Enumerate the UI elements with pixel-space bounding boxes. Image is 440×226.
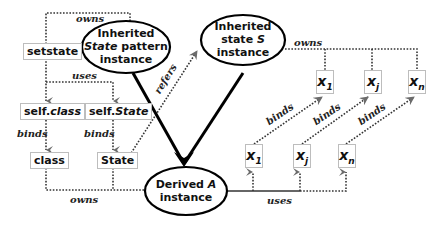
node-label: state S xyxy=(202,33,284,46)
var-sub: 1 xyxy=(326,82,332,92)
var-base: x xyxy=(409,73,418,89)
var-base: x xyxy=(367,73,376,89)
edge-label-binds-state: binds xyxy=(84,128,115,139)
s-var-xn: xn xyxy=(408,70,426,94)
edge-label-owns-right: owns xyxy=(294,37,322,48)
node-label-prefix: self. xyxy=(24,105,50,118)
var-sub: n xyxy=(418,82,424,92)
node-label: instance xyxy=(84,53,168,66)
node-label-italic: State xyxy=(115,105,148,118)
node-label: Inherited xyxy=(84,27,168,40)
node-label-italic: S xyxy=(257,33,265,46)
a-var-xn: xn xyxy=(338,144,356,168)
a-var-x1: x1 xyxy=(245,144,263,168)
node-state: State xyxy=(97,152,138,169)
var-base: x xyxy=(296,147,305,163)
edge-label-owns-top: owns xyxy=(76,13,104,24)
node-label: instance xyxy=(146,191,226,204)
node-label-rest: Derived xyxy=(156,178,208,191)
node-label: Derived A xyxy=(146,178,226,191)
node-label-rest: state xyxy=(221,33,257,46)
var-sub: j xyxy=(376,82,379,92)
var-sub: j xyxy=(305,156,308,166)
var-sub: n xyxy=(348,156,354,166)
node-class: class xyxy=(30,152,69,169)
node-label: instance xyxy=(202,46,284,59)
node-setstate: setstate xyxy=(23,43,82,60)
node-label: State pattern xyxy=(84,40,168,53)
node-self-state: self.State xyxy=(85,103,152,120)
node-label: Inherited xyxy=(202,20,284,33)
var-base: x xyxy=(339,147,348,163)
node-label-rest: pattern xyxy=(117,40,167,53)
node-inherited-state-pattern-instance: Inherited State pattern instance xyxy=(84,27,168,66)
node-label-prefix: self. xyxy=(89,105,115,118)
var-sub: 1 xyxy=(255,156,261,166)
node-derived-a-instance: Derived A instance xyxy=(146,178,226,204)
node-label-italic: State xyxy=(84,40,117,53)
node-inherited-state-s-instance: Inherited state S instance xyxy=(202,20,284,59)
node-self-class: self.class xyxy=(20,103,85,120)
s-var-xj: xj xyxy=(364,70,382,94)
edge-label-binds-class: binds xyxy=(17,128,48,139)
node-label-italic: class xyxy=(50,105,81,118)
a-var-xj: xj xyxy=(293,144,311,168)
node-label-italic: A xyxy=(208,178,217,191)
edge-label-uses-left: uses xyxy=(72,70,97,81)
edge-label-owns-bottom: owns xyxy=(70,194,98,205)
edge-label-uses-bottom: uses xyxy=(267,195,292,206)
s-var-x1: x1 xyxy=(316,70,334,94)
